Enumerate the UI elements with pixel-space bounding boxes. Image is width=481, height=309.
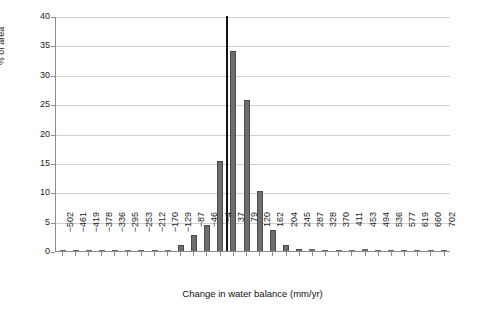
chart-container: % of area 0510152025303540 −502−461−419−…	[0, 0, 481, 309]
y-tick-label: 5	[24, 218, 50, 227]
x-tick-mark	[417, 252, 418, 256]
y-axis-title: % of area	[0, 0, 6, 96]
x-tick-mark	[444, 252, 445, 256]
x-tick-mark	[62, 252, 63, 256]
x-tick-label: −419	[92, 212, 101, 258]
y-tick-label: 15	[24, 159, 50, 168]
x-tick-label: 37	[237, 212, 246, 258]
x-tick-mark	[206, 252, 207, 256]
x-tick-mark	[167, 252, 168, 256]
x-tick-label: 120	[263, 212, 272, 258]
x-tick-label: −253	[145, 212, 154, 258]
x-tick-mark	[365, 252, 366, 256]
x-tick-label: 660	[434, 212, 443, 258]
x-tick-mark	[220, 252, 221, 256]
bar	[60, 250, 66, 251]
y-tick-label: 0	[24, 247, 50, 256]
x-tick-label: −46	[210, 212, 219, 258]
x-tick-label: −461	[79, 212, 88, 258]
x-tick-mark	[88, 252, 89, 256]
x-tick-mark	[259, 252, 260, 256]
x-tick-label: 370	[342, 212, 351, 258]
x-tick-mark	[378, 252, 379, 256]
x-tick-mark	[430, 252, 431, 256]
x-tick-mark	[141, 252, 142, 256]
y-tick-label: 25	[24, 100, 50, 109]
x-tick-mark	[404, 252, 405, 256]
x-tick-label: 619	[421, 212, 430, 258]
y-tick-label: 40	[24, 12, 50, 21]
x-tick-label: −87	[197, 212, 206, 258]
x-tick-label: −336	[118, 212, 127, 258]
x-tick-mark	[233, 252, 234, 256]
x-tick-label: −502	[66, 212, 75, 258]
x-tick-mark	[312, 252, 313, 256]
x-tick-label: −170	[171, 212, 180, 258]
x-tick-label: −378	[105, 212, 114, 258]
x-tick-mark	[101, 252, 102, 256]
x-tick-label: 162	[276, 212, 285, 258]
x-tick-label: −129	[184, 212, 193, 258]
y-tick-label: 20	[24, 130, 50, 139]
x-tick-mark	[272, 252, 273, 256]
x-tick-mark	[325, 252, 326, 256]
x-tick-mark	[351, 252, 352, 256]
y-tick-label: 35	[24, 41, 50, 50]
x-tick-label: 411	[355, 212, 364, 258]
x-tick-label: −295	[131, 212, 140, 258]
y-tick-label: 30	[24, 71, 50, 80]
x-tick-mark	[127, 252, 128, 256]
x-tick-mark	[75, 252, 76, 256]
x-tick-label: 79	[250, 212, 259, 258]
x-axis-title: Change in water balance (mm/yr)	[55, 288, 450, 299]
y-tick-mark	[51, 252, 55, 253]
x-tick-label: 536	[395, 212, 404, 258]
x-tick-mark	[193, 252, 194, 256]
x-tick-label: 577	[408, 212, 417, 258]
x-tick-label: 453	[369, 212, 378, 258]
x-tick-label: −4	[224, 212, 233, 258]
x-tick-mark	[338, 252, 339, 256]
x-tick-mark	[114, 252, 115, 256]
x-tick-label: −212	[158, 212, 167, 258]
x-tick-label: 702	[448, 212, 457, 258]
x-tick-mark	[391, 252, 392, 256]
x-tick-label: 494	[382, 212, 391, 258]
y-tick-label: 10	[24, 188, 50, 197]
x-tick-mark	[180, 252, 181, 256]
x-tick-label: 287	[316, 212, 325, 258]
x-tick-label: 328	[329, 212, 338, 258]
x-tick-mark	[299, 252, 300, 256]
x-tick-label: 245	[303, 212, 312, 258]
x-tick-mark	[246, 252, 247, 256]
x-tick-mark	[154, 252, 155, 256]
x-tick-label: 204	[290, 212, 299, 258]
x-tick-mark	[286, 252, 287, 256]
